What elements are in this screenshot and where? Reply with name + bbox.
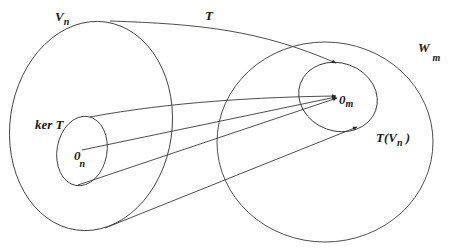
map-label: T <box>205 8 214 23</box>
arrow-domain-bottom-to-image-bottom <box>105 127 357 228</box>
kernel-label: ker T <box>35 117 65 132</box>
domain-label: Vn <box>55 9 70 27</box>
codomain-label: Wm <box>418 40 441 63</box>
arrow-zero-n-to-zero-m <box>82 97 336 150</box>
image-label: T(Vn ) <box>376 130 410 148</box>
zero-n-label: 0n <box>74 148 86 169</box>
arrow-kernel-bottom-to-zero <box>78 98 337 185</box>
zero-m-label: 0m <box>339 92 354 109</box>
linear-map-kernel-image-diagram: Vn T ker T 0n Wm 0m T(Vn ) <box>0 0 452 251</box>
